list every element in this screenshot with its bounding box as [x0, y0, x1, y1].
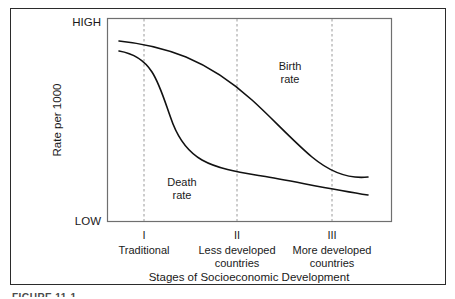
stage-iii-label-line2: countries — [310, 257, 355, 269]
death-rate-label-line1: Death — [167, 176, 196, 188]
stage-ii-label-line2: countries — [215, 257, 260, 269]
stage-ii-numeral: II — [234, 229, 240, 241]
y-axis-low-label: LOW — [75, 215, 101, 227]
figure-caption-text: FIGURE 11-1 — [12, 292, 76, 297]
y-axis-high-label: HIGH — [72, 16, 101, 28]
birth-rate-label-line2: rate — [281, 73, 300, 85]
stage-iii-label-line1: More developed — [293, 244, 372, 256]
stage-i-label-line1: Traditional — [119, 244, 170, 256]
figure-caption: FIGURE 11-1 — [12, 289, 132, 297]
demographic-transition-chart: HIGH LOW Rate per 1000 Birth rate Death … — [0, 0, 455, 299]
stage-iii-numeral: III — [327, 229, 336, 241]
stage-ii-label-line1: Less developed — [198, 244, 275, 256]
y-axis-title: Rate per 1000 — [51, 84, 63, 157]
figure-root: HIGH LOW Rate per 1000 Birth rate Death … — [0, 0, 455, 299]
birth-rate-label-line1: Birth — [279, 60, 302, 72]
death-rate-label-line2: rate — [173, 189, 192, 201]
stage-i-numeral: I — [142, 229, 145, 241]
x-axis-title: Stages of Socioeconomic Development — [149, 271, 351, 283]
